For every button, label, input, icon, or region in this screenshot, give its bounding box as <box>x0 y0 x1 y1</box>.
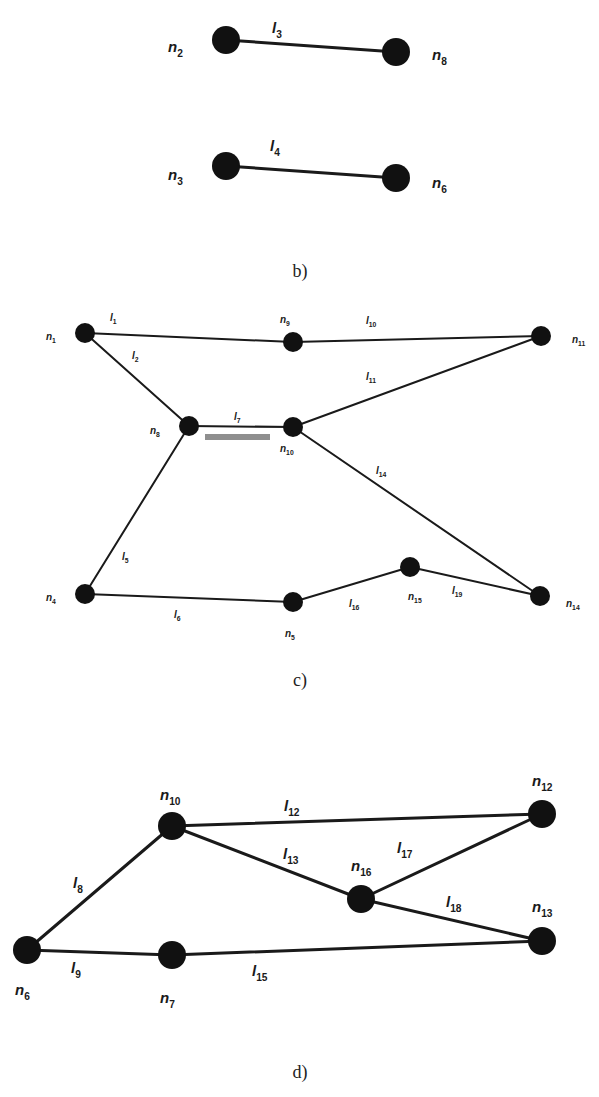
node-label-n8: n8 <box>150 425 160 438</box>
highlight-bar <box>205 434 270 440</box>
edge-l12 <box>172 814 542 826</box>
edge-label-l17: l17 <box>397 839 413 860</box>
edge-label-l6: l6 <box>174 609 181 622</box>
node-label-n4: n4 <box>46 592 56 605</box>
node-n2 <box>212 26 240 54</box>
node-n6 <box>13 936 41 964</box>
node-label-n11: n11 <box>572 334 586 347</box>
node-label-n9: n9 <box>280 314 290 327</box>
edge-l8 <box>27 826 172 950</box>
node-n3 <box>212 152 240 180</box>
edge-label-l1: l1 <box>110 312 117 325</box>
node-n14 <box>530 586 550 606</box>
node-n8 <box>179 416 199 436</box>
edge-label-l19: l19 <box>452 585 463 598</box>
node-n12 <box>528 800 556 828</box>
edge-l3 <box>226 40 396 52</box>
panel-caption-c: c) <box>293 670 307 691</box>
edge-label-l11: l11 <box>366 371 376 384</box>
panel-b: n2n8n3n6l3l4b) <box>168 19 447 282</box>
edge-l2 <box>85 333 189 426</box>
edge-l1 <box>85 333 293 342</box>
node-label-n16: n16 <box>351 857 372 878</box>
edge-l15 <box>172 941 542 955</box>
edge-label-l13: l13 <box>283 845 299 866</box>
edge-label-l9: l9 <box>71 959 81 980</box>
node-label-n2: n2 <box>168 38 183 59</box>
panel-caption-d: d) <box>293 1062 308 1083</box>
edge-label-l2: l2 <box>132 350 139 363</box>
edge-label-l18: l18 <box>446 893 462 914</box>
node-label-n15: n15 <box>408 591 422 604</box>
node-label-n1: n1 <box>46 331 56 344</box>
edge-l9 <box>27 950 172 955</box>
node-label-n13: n13 <box>532 898 553 919</box>
edge-label-l16: l16 <box>349 598 360 611</box>
node-n5 <box>283 592 303 612</box>
network-topology-figure: n2n8n3n6l3l4b) n1n9n11n8n10n4n5n15n14l1l… <box>0 0 599 1097</box>
node-n9 <box>283 332 303 352</box>
panel-caption-b: b) <box>293 261 308 282</box>
graph-diagram-canvas: n2n8n3n6l3l4b) n1n9n11n8n10n4n5n15n14l1l… <box>0 0 599 1097</box>
node-n10 <box>283 417 303 437</box>
panel-c: n1n9n11n8n10n4n5n15n14l1l10l2l11l7l14l5l… <box>46 312 586 691</box>
node-label-n14: n14 <box>566 598 580 611</box>
edge-l10 <box>293 336 541 342</box>
edge-label-l3: l3 <box>272 19 282 40</box>
edge-label-l14: l14 <box>376 465 387 478</box>
node-n6 <box>382 164 410 192</box>
node-label-n7: n7 <box>160 989 175 1010</box>
node-n7 <box>158 941 186 969</box>
node-label-n3: n3 <box>168 166 183 187</box>
edge-label-l10: l10 <box>366 315 377 328</box>
node-label-n10: n10 <box>280 443 294 456</box>
edge-l5 <box>85 426 189 594</box>
node-label-n8: n8 <box>432 46 447 67</box>
edge-label-l5: l5 <box>122 551 129 564</box>
node-n1 <box>75 323 95 343</box>
edge-label-l8: l8 <box>73 874 83 895</box>
edge-l16 <box>293 567 410 602</box>
edge-label-l4: l4 <box>270 137 280 158</box>
edge-l17 <box>361 814 542 899</box>
edge-l11 <box>293 336 541 427</box>
node-n13 <box>528 927 556 955</box>
node-n4 <box>75 584 95 604</box>
edge-l13 <box>172 826 361 899</box>
node-label-n12: n12 <box>532 772 553 793</box>
node-n8 <box>382 38 410 66</box>
edge-l4 <box>226 166 396 178</box>
node-n16 <box>347 885 375 913</box>
edge-l7 <box>189 426 293 427</box>
edge-label-l12: l12 <box>284 797 300 818</box>
node-label-n10: n10 <box>160 786 181 807</box>
node-label-n6: n6 <box>15 981 30 1002</box>
node-n15 <box>400 557 420 577</box>
node-n10 <box>158 812 186 840</box>
edge-label-l7: l7 <box>234 411 241 424</box>
edge-l6 <box>85 594 293 602</box>
edge-label-l15: l15 <box>252 962 268 983</box>
panel-d: n10n12n16n13n6n7l12l13l17l18l8l9l15d) <box>13 772 556 1083</box>
node-label-n5: n5 <box>285 628 295 641</box>
node-n11 <box>531 326 551 346</box>
node-label-n6: n6 <box>432 174 447 195</box>
